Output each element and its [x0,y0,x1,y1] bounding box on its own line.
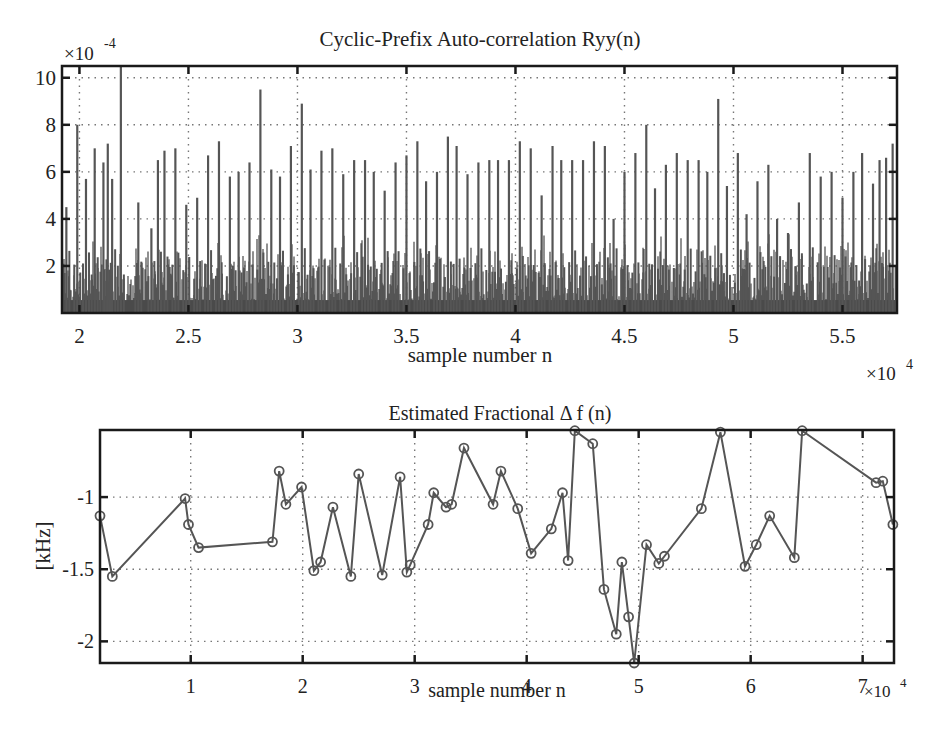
autocorrelation-series [62,66,897,313]
x-tick-label: 2 [298,675,308,697]
svg-text:4: 4 [906,357,913,372]
y-tick-label: 8 [46,113,57,137]
series-line [100,431,893,663]
y-axis-label: [kHz] [31,522,55,571]
svg-text:4: 4 [900,675,907,690]
svg-text:×10: ×10 [866,363,896,384]
x-tick-label: 3 [292,324,303,348]
y-tick-label: -1.5 [62,558,94,580]
y-multiplier-label: ×10 -4 [64,36,116,64]
x-axis-label: sample number n [428,679,566,702]
x-tick-label: 5 [634,675,644,697]
x-tick-label: 3 [410,675,420,697]
x-tick-label: 2 [74,324,85,348]
y-tick-label: 6 [46,160,57,184]
y-tick-label: 2 [46,254,57,278]
figure: Cyclic-Prefix Auto-correlation Ryy(n) ×1… [0,0,926,752]
svg-text:×10: ×10 [864,682,891,701]
x-axis-label: sample number n [408,343,553,367]
svg-text:×10: ×10 [64,43,94,64]
x-tick-label: 2.5 [175,324,201,348]
svg-text:-4: -4 [104,36,116,51]
x-tick-label: 5 [728,324,739,348]
axis-ticks: 1234567-1-1.5-2 [62,430,894,697]
x-tick-label: 1 [186,675,196,697]
plot-title: Cyclic-Prefix Auto-correlation Ryy(n) [319,27,640,51]
frequency-offset-plot: Estimated Fractional Δ f (n) 1234567-1-1… [31,402,907,702]
y-tick-label: -1 [77,486,94,508]
x-tick-label: 4.5 [611,324,637,348]
y-tick-label: 10 [35,66,56,90]
y-tick-label: -2 [77,630,94,652]
plot-title: Estimated Fractional Δ f (n) [389,402,612,425]
x-multiplier-label: ×10 4 [866,357,913,384]
x-tick-label: 5.5 [829,324,855,348]
x-multiplier-label: ×10 4 [864,675,907,701]
x-tick-label: 6 [746,675,756,697]
autocorrelation-plot: Cyclic-Prefix Auto-correlation Ryy(n) ×1… [35,27,913,384]
frequency-offset-series [96,426,898,667]
y-tick-label: 4 [46,207,57,231]
